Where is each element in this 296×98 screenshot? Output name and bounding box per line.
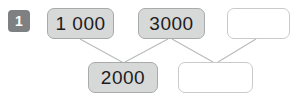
number-box-2000[interactable]: 2000 bbox=[88, 62, 158, 93]
number-box-blank-top[interactable] bbox=[227, 8, 290, 39]
number-box-3000[interactable]: 3000 bbox=[138, 8, 205, 39]
connector-1000-to-2000 bbox=[80, 39, 122, 62]
number-box-blank-bottom[interactable] bbox=[178, 62, 253, 93]
diagram-canvas: 1 1 000 3000 2000 bbox=[0, 0, 296, 98]
number-box-1000[interactable]: 1 000 bbox=[47, 8, 114, 39]
exercise-number-badge: 1 bbox=[8, 10, 30, 32]
connector-blank-top-to-blank-bottom bbox=[218, 39, 256, 62]
connector-3000-to-blank-bottom bbox=[172, 39, 213, 62]
connector-3000-to-2000 bbox=[125, 39, 168, 62]
